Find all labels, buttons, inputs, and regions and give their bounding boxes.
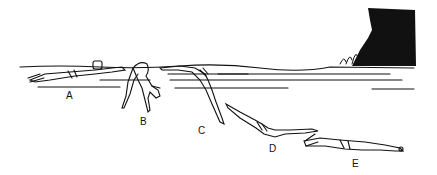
label-e: E — [352, 158, 359, 169]
label-c: C — [198, 125, 205, 136]
swimmer-A — [28, 61, 125, 82]
water-surface — [20, 65, 414, 89]
swim-sequence-figure: A B C D E — [0, 0, 437, 175]
label-d: D — [269, 143, 276, 154]
swimmer-E — [304, 134, 403, 151]
wall-wave-splash — [340, 8, 416, 66]
swimmer-C — [160, 66, 224, 124]
label-a: A — [66, 90, 73, 101]
figure-drawing — [0, 0, 437, 175]
swimmer-B — [122, 63, 160, 112]
swimmer-D — [226, 104, 318, 137]
label-b: B — [140, 116, 147, 127]
